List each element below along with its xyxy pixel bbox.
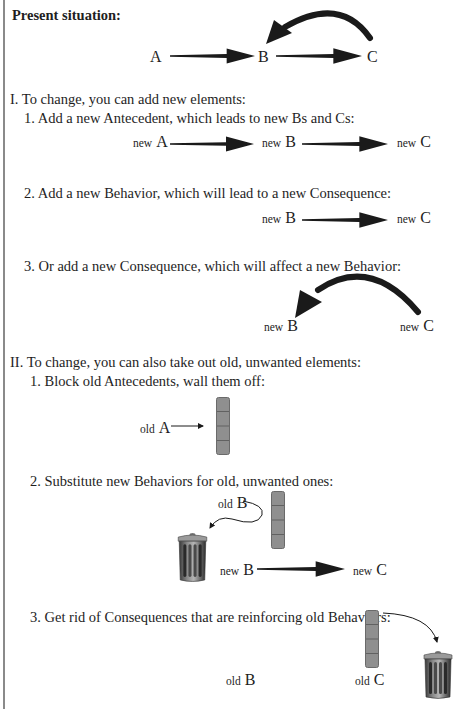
diagram-graphics: [0, 0, 460, 709]
top-arrows: [170, 13, 370, 63]
